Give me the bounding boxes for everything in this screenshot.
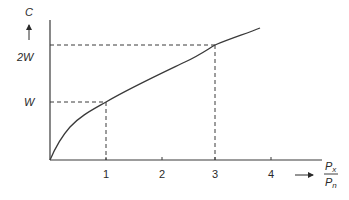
- y-tick-2w: 2W: [16, 51, 35, 63]
- x-axis-label: Px Pn: [324, 160, 338, 190]
- svg-text:Px: Px: [325, 160, 337, 174]
- y-axis-label: C: [25, 6, 33, 18]
- svg-text:Pn: Pn: [325, 176, 337, 190]
- x-tick-label-4: 4: [268, 168, 274, 180]
- chart: C 2W W 1 2 3 4 Px Pn: [0, 0, 349, 200]
- y-tick-w: W: [24, 96, 36, 108]
- x-tick-label-3: 3: [212, 168, 218, 180]
- curve-c: [50, 28, 260, 160]
- x-tick-label-2: 2: [159, 168, 165, 180]
- x-tick-label-1: 1: [103, 168, 109, 180]
